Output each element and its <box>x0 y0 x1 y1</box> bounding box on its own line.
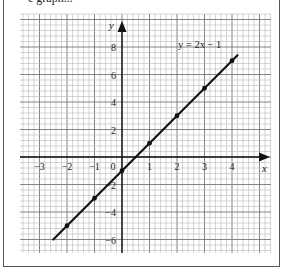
x-tick-label: −2 <box>62 161 73 172</box>
y-tick-label: 2 <box>111 125 116 136</box>
x-tick-label: −1 <box>89 161 100 172</box>
y-tick-label: 4 <box>111 97 116 108</box>
data-point <box>120 168 125 173</box>
x-axis-arrow-icon <box>259 153 270 162</box>
data-point <box>65 223 70 228</box>
data-point <box>230 58 235 63</box>
axes: x y <box>20 20 270 253</box>
x-tick-label: 4 <box>230 161 235 172</box>
x-tick-label: 0 <box>111 161 116 172</box>
x-tick-label: 3 <box>202 161 207 172</box>
graph-grid <box>20 14 271 253</box>
x-tick-label: 1 <box>147 161 152 172</box>
y-axis-label: y <box>108 20 114 31</box>
y-axis-arrow-icon <box>118 21 127 32</box>
y-tick-label: 6 <box>111 70 116 81</box>
data-point <box>175 113 180 118</box>
equation-label: y = 2x − 1 <box>178 39 221 50</box>
graph-chart: x y −3−2−101234 8642−2−4−6 y = 2x − 1 <box>0 0 285 270</box>
x-axis-label: x <box>261 163 267 174</box>
x-tick-label: 2 <box>175 161 180 172</box>
y-tick-label: −4 <box>105 207 116 218</box>
y-tick-labels: 8642−2−4−6 <box>105 42 116 246</box>
y-tick-label: −6 <box>105 235 116 246</box>
data-point <box>147 141 152 146</box>
data-point <box>202 86 207 91</box>
y-tick-label: 8 <box>111 42 116 53</box>
data-point <box>92 196 97 201</box>
x-tick-label: −3 <box>34 161 45 172</box>
